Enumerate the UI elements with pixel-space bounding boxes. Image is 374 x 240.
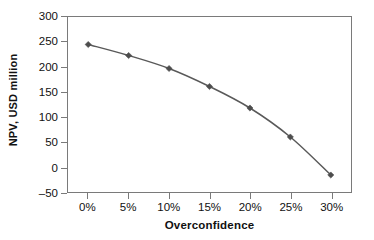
x-axis-tick-mark [291, 193, 292, 199]
x-axis-tick-label: 25% [279, 201, 302, 213]
x-axis-tick-mark [87, 193, 88, 199]
x-axis-tick-mark [210, 193, 211, 199]
y-axis-title-text: NPV, USD million [7, 54, 19, 147]
series-line [88, 44, 331, 175]
data-point-marker [166, 65, 172, 71]
chart-container: NPV, USD million 300250200150100500–50 0… [0, 0, 374, 240]
y-axis-tick-label: –50 [39, 187, 58, 199]
y-axis-tick-label: 200 [39, 61, 58, 73]
x-axis-tick-mark [169, 193, 170, 199]
y-axis-tick-label: 100 [39, 111, 58, 123]
x-axis-tick-label: 30% [320, 201, 343, 213]
y-axis-tick-label: 0 [52, 162, 58, 174]
y-axis-tick-label: 50 [45, 136, 58, 148]
x-axis-tick-mark [128, 193, 129, 199]
y-axis-tick-mark [61, 92, 67, 93]
data-point-marker [126, 52, 132, 58]
series-plot [68, 17, 351, 192]
y-axis-tick-label: 300 [39, 10, 58, 22]
y-axis-tick-mark [61, 117, 67, 118]
x-axis-tick-label: 10% [157, 201, 180, 213]
data-point-marker [206, 83, 212, 89]
x-axis-tick-label: 5% [120, 201, 137, 213]
y-axis-tick-mark [61, 41, 67, 42]
y-axis-tick-mark [61, 142, 67, 143]
x-axis-title: Overconfidence [67, 219, 352, 231]
data-point-marker [85, 41, 91, 47]
y-axis-tick-label: 150 [39, 86, 58, 98]
y-axis-tick-mark [61, 168, 67, 169]
plot-area [67, 16, 352, 193]
y-axis-title: NPV, USD million [0, 0, 26, 200]
x-axis-tick-label: 0% [79, 201, 96, 213]
y-axis-tick-label: 250 [39, 35, 58, 47]
x-axis-tick-labels: 0%5%10%15%20%25%30% [67, 201, 352, 219]
x-axis-tick-label: 20% [239, 201, 262, 213]
y-axis-tick-labels: 300250200150100500–50 [26, 10, 62, 194]
y-axis-tick-mark [61, 16, 67, 17]
x-axis-tick-label: 15% [198, 201, 221, 213]
x-axis-tick-mark [250, 193, 251, 199]
x-axis-tick-mark [332, 193, 333, 199]
y-axis-tick-mark [61, 193, 67, 194]
y-axis-tick-mark [61, 67, 67, 68]
